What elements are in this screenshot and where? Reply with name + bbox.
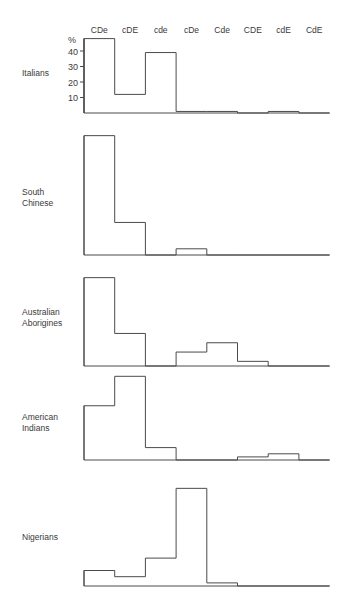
category-label: CDE <box>244 25 262 35</box>
rhesus-haplotype-histograms: CDecDEcdecDeCdeCDEcdECdE 10203040% Itali… <box>0 0 346 610</box>
category-label: cde <box>154 25 168 35</box>
panel-nigerians: Nigerians <box>22 488 330 586</box>
population-label: SouthChinese <box>22 187 53 208</box>
panel-australian-aborigines: AustralianAborigines <box>22 278 330 366</box>
percent-unit-label: % <box>68 35 76 45</box>
histogram-outline <box>84 278 330 366</box>
population-label: AustralianAborigines <box>22 307 62 328</box>
panel-american-indians: AmericanIndians <box>22 376 330 460</box>
category-label: Cde <box>214 25 230 35</box>
y-axis-italians: 10203040% <box>68 35 84 113</box>
category-label: cDE <box>122 25 138 35</box>
population-label: AmericanIndians <box>22 412 58 433</box>
category-label: cDe <box>184 25 199 35</box>
histogram-outline <box>84 488 330 586</box>
y-tick-label: 20 <box>68 78 78 88</box>
y-tick-label: 40 <box>68 47 78 57</box>
histogram-outline <box>84 376 330 460</box>
population-label: Nigerians <box>22 532 58 542</box>
category-label: CdE <box>306 25 323 35</box>
histogram-outline <box>84 136 330 255</box>
category-labels: CDecDEcdecDeCdeCDEcdECdE <box>91 25 323 35</box>
y-tick-label: 30 <box>68 62 78 72</box>
category-label: CDe <box>91 25 108 35</box>
category-label: cdE <box>276 25 291 35</box>
panel-south-chinese: SouthChinese <box>22 136 330 255</box>
population-label: Italians <box>22 68 49 78</box>
population-panels: ItaliansSouthChineseAustralianAborigines… <box>22 39 330 586</box>
histogram-outline <box>84 39 330 113</box>
y-tick-label: 10 <box>68 93 78 103</box>
